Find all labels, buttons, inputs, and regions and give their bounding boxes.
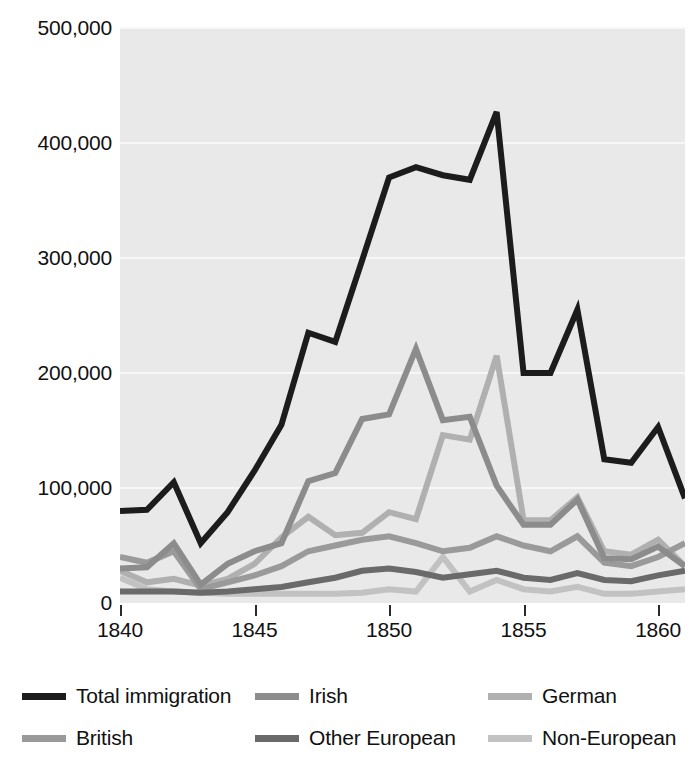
y-tick-label: 300,000 bbox=[0, 247, 112, 268]
x-tick-label: 1840 bbox=[97, 619, 143, 641]
x-tick-mark bbox=[658, 605, 660, 616]
legend-row: BritishOther EuropeanNon-European bbox=[0, 718, 692, 758]
legend-swatch bbox=[255, 735, 299, 742]
x-tick-mark bbox=[524, 605, 526, 616]
legend-swatch bbox=[488, 735, 532, 742]
x-tick-mark bbox=[120, 605, 122, 616]
legend-label: Irish bbox=[309, 685, 348, 707]
legend-item: Non-European bbox=[488, 718, 676, 758]
series-layer bbox=[120, 28, 685, 603]
x-tick-label: 1850 bbox=[366, 619, 412, 641]
x-axis: 18401845185018551860 bbox=[120, 603, 685, 648]
legend-item: Irish bbox=[255, 676, 348, 716]
x-tick-mark bbox=[255, 605, 257, 616]
legend-item: British bbox=[22, 718, 133, 758]
legend-label: British bbox=[76, 727, 133, 749]
legend-item: German bbox=[488, 676, 617, 716]
series-line bbox=[120, 349, 685, 585]
legend-label: Other European bbox=[309, 727, 456, 749]
legend-swatch bbox=[255, 693, 299, 700]
x-tick-mark bbox=[389, 605, 391, 616]
legend-item: Total immigration bbox=[22, 676, 231, 716]
legend-label: Total immigration bbox=[76, 685, 231, 707]
series-lines bbox=[120, 28, 685, 603]
y-tick-label: 400,000 bbox=[0, 132, 112, 153]
legend-label: Non-European bbox=[542, 727, 676, 749]
y-tick-label: 200,000 bbox=[0, 362, 112, 383]
chart-legend: Total immigrationIrishGerman BritishOthe… bbox=[0, 676, 692, 768]
legend-label: German bbox=[542, 685, 617, 707]
y-tick-label: 0 bbox=[0, 592, 112, 613]
immigration-line-chart: 0100,000200,000300,000400,000500,000 184… bbox=[0, 0, 692, 775]
x-tick-label: 1845 bbox=[232, 619, 278, 641]
legend-row: Total immigrationIrishGerman bbox=[0, 676, 692, 716]
legend-swatch bbox=[22, 735, 66, 742]
legend-swatch bbox=[488, 693, 532, 700]
x-tick-label: 1855 bbox=[501, 619, 547, 641]
y-axis: 0100,000200,000300,000400,000500,000 bbox=[0, 0, 112, 640]
y-tick-label: 100,000 bbox=[0, 477, 112, 498]
y-tick-label: 500,000 bbox=[0, 17, 112, 38]
series-line bbox=[120, 112, 685, 543]
x-tick-label: 1860 bbox=[635, 619, 681, 641]
legend-item: Other European bbox=[255, 718, 456, 758]
legend-swatch bbox=[22, 693, 66, 700]
